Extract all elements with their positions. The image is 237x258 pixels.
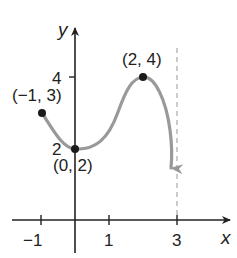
- x-tick-label-1: 1: [104, 232, 113, 249]
- x-tick-label-3: 3: [172, 232, 181, 249]
- x-tick-label-neg1: −1: [23, 232, 42, 249]
- point-label-0-2: (0, 2): [53, 157, 93, 174]
- x-axis-label: x: [221, 228, 231, 247]
- point-2-4: [139, 73, 147, 81]
- y-tick-label-4: 4: [52, 70, 61, 87]
- point-0-2: [71, 145, 79, 153]
- y-axis-label: y: [58, 20, 68, 39]
- point-label-neg1-3: (−1, 3): [12, 87, 62, 104]
- point-neg1-3: [38, 109, 46, 117]
- point-label-2-4: (2, 4): [122, 51, 162, 68]
- function-graph: [0, 0, 237, 258]
